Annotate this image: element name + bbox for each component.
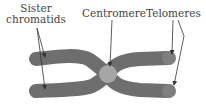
telomere-tip-upper	[162, 51, 176, 65]
telomere-tip-lower	[162, 84, 176, 98]
arrow-telomere-lower	[174, 20, 184, 85]
arrow-telomere-upper	[172, 20, 173, 54]
arrow-centromere	[110, 20, 112, 66]
centromere	[99, 65, 117, 83]
chromosome-diagram	[0, 0, 206, 111]
